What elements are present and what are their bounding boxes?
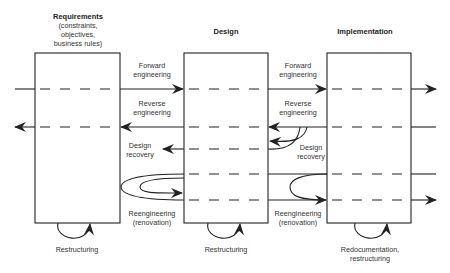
label-line: engineering <box>133 70 171 79</box>
label-forward-engineering-2: Forward engineering <box>279 61 317 79</box>
label-line: Reverse <box>133 99 171 108</box>
stage-title-implementation: Implementation <box>337 27 392 36</box>
label-line: Design <box>126 141 154 150</box>
implementation-box <box>327 53 411 223</box>
label-restructuring-requirements: Restructuring <box>56 245 99 254</box>
label-forward-engineering-1: Forward engineering <box>133 61 171 79</box>
requirements-subtitle-1: (constraints, <box>53 21 103 30</box>
reengineering-flow <box>121 174 436 200</box>
label-line: Reverse <box>279 99 317 108</box>
label-line: Reengineering <box>129 209 176 218</box>
label-line: recovery <box>297 152 325 161</box>
requirements-title: Requirements <box>53 12 103 21</box>
label-line: Forward <box>279 61 317 70</box>
label-line: engineering <box>279 70 317 79</box>
requirements-subtitle-2: objectives, <box>53 30 103 39</box>
requirements-subtitle-3: business rules) <box>53 39 103 48</box>
label-line: Design <box>297 143 325 152</box>
label-reengineering-2: Reengineering (renovation) <box>275 209 322 227</box>
requirements-box <box>35 53 120 223</box>
label-line: (renovation) <box>275 218 322 227</box>
label-design-recovery-2: Design recovery <box>297 143 325 161</box>
label-design-recovery-1: Design recovery <box>126 141 154 159</box>
label-redocumentation-implementation: Redocumentation, restructuring <box>341 245 399 263</box>
label-line: recovery <box>126 150 154 159</box>
label-line: engineering <box>133 108 171 117</box>
stage-title-design: Design <box>213 27 238 36</box>
label-reverse-engineering-2: Reverse engineering <box>279 99 317 117</box>
label-line: Redocumentation, <box>341 245 399 254</box>
label-reengineering-1: Reengineering (renovation) <box>129 209 176 227</box>
label-reverse-engineering-1: Reverse engineering <box>133 99 171 117</box>
label-line: restructuring <box>341 254 399 263</box>
design-box <box>184 53 268 223</box>
stage-title-requirements: Requirements (constraints, objectives, b… <box>53 12 103 48</box>
label-line: Reengineering <box>275 209 322 218</box>
restructuring-loops <box>58 223 387 238</box>
label-line: (renovation) <box>129 218 176 227</box>
label-line: engineering <box>279 108 317 117</box>
label-restructuring-design: Restructuring <box>205 245 248 254</box>
design-recovery-flow <box>163 127 307 149</box>
label-line: Forward <box>133 61 171 70</box>
